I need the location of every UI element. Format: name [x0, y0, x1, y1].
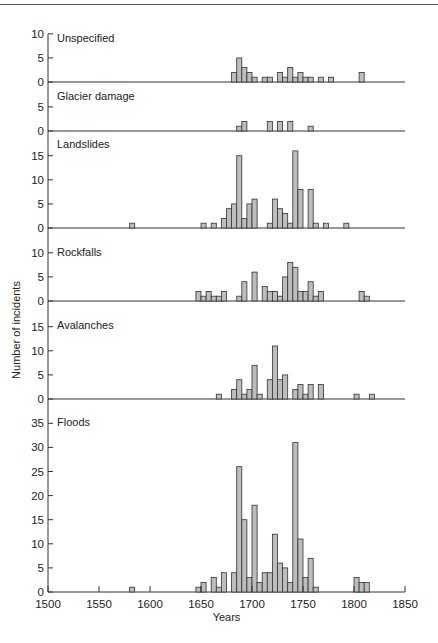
y-tick-label: 5 — [38, 101, 44, 113]
y-tick-label: 5 — [38, 52, 44, 64]
x-tick-label: 1650 — [188, 598, 214, 610]
histogram-bar — [242, 218, 247, 228]
histogram-bar — [344, 223, 349, 228]
histogram-bar — [318, 77, 323, 82]
y-tick-label: 0 — [38, 295, 44, 307]
histogram-bar — [323, 223, 328, 228]
histogram-bar — [257, 394, 262, 399]
x-tick-label: 1800 — [341, 598, 367, 610]
y-tick-label: 5 — [38, 271, 44, 283]
histogram-bar — [211, 223, 216, 228]
histogram-bar — [242, 520, 247, 592]
y-tick-label: 5 — [38, 369, 44, 381]
histogram-bar — [130, 223, 135, 228]
histogram-bar — [247, 204, 252, 228]
y-tick-label: 0 — [38, 222, 44, 234]
histogram-bar — [278, 380, 283, 399]
y-tick-label: 10 — [31, 28, 44, 40]
histogram-bar — [221, 218, 226, 228]
histogram-bar — [278, 209, 283, 228]
histogram-bar — [221, 573, 226, 592]
histogram-bar — [242, 121, 247, 131]
histogram-bar — [232, 72, 237, 82]
histogram-bar — [196, 291, 201, 301]
y-tick-label: 30 — [31, 441, 44, 453]
histogram-bar — [272, 291, 277, 301]
histogram-bar — [313, 223, 318, 228]
y-tick-label: 5 — [38, 198, 44, 210]
histogram-bar — [354, 394, 359, 399]
panel-title: Avalanches — [57, 319, 114, 331]
histogram-bar — [303, 394, 308, 399]
y-tick-label: 0 — [38, 393, 44, 405]
histogram-bar — [308, 385, 313, 400]
histogram-bar — [329, 77, 334, 82]
histogram-bar — [130, 587, 135, 592]
histogram-bar — [293, 151, 298, 228]
y-tick-label: 10 — [31, 345, 44, 357]
panel-title: Landslides — [57, 138, 110, 150]
histogram-bar — [262, 77, 267, 82]
histogram-bar — [272, 199, 277, 228]
histogram-bar — [237, 467, 242, 592]
histogram-bar — [318, 291, 323, 301]
x-tick-label: 1700 — [239, 598, 265, 610]
y-tick-label: 15 — [31, 150, 44, 162]
y-tick-label: 15 — [31, 514, 44, 526]
histogram-bar — [293, 389, 298, 399]
histogram-bar — [364, 296, 369, 301]
y-tick-label: 25 — [31, 466, 44, 478]
histogram-bar — [288, 121, 293, 131]
histogram-bar — [232, 204, 237, 228]
histogram-bar — [247, 72, 252, 82]
histogram-bar — [247, 389, 252, 399]
histogram-bar — [252, 365, 257, 399]
histogram-bar — [216, 587, 221, 592]
histogram-bar — [247, 578, 252, 593]
y-tick-label: 0 — [38, 76, 44, 88]
histogram-bar — [303, 77, 308, 82]
panel-title: Unspecified — [57, 32, 114, 44]
histogram-bar — [288, 582, 293, 592]
histogram-bar — [242, 68, 247, 83]
histogram-bar — [293, 443, 298, 592]
panel-title: Glacier damage — [57, 90, 135, 102]
histogram-bar — [257, 582, 262, 592]
histogram-bar — [308, 558, 313, 592]
histogram-bar — [293, 267, 298, 301]
histogram-bar — [278, 296, 283, 301]
histogram-bar — [283, 375, 288, 399]
histogram-bar — [288, 68, 293, 83]
y-axis-title: Number of incidents — [10, 281, 22, 379]
histogram-bar — [252, 272, 257, 301]
histogram-bar — [288, 223, 293, 228]
histogram-bar — [227, 209, 232, 228]
histogram-bar — [267, 291, 272, 301]
y-tick-label: 20 — [31, 490, 44, 502]
histogram-bar — [252, 199, 257, 228]
histogram-bar — [237, 380, 242, 399]
histogram-bar — [252, 505, 257, 592]
histogram-bar — [313, 587, 318, 592]
histogram-bar — [211, 578, 216, 593]
histogram-bar — [293, 77, 298, 82]
y-tick-label: 10 — [31, 174, 44, 186]
histogram-bar — [201, 296, 206, 301]
histogram-bar — [288, 262, 293, 301]
histogram-bar — [267, 77, 272, 82]
panel-title: Floods — [57, 416, 91, 428]
histogram-bar — [262, 573, 267, 592]
histogram-bar — [201, 582, 206, 592]
histogram-bar — [252, 77, 257, 82]
histogram-bar — [298, 291, 303, 301]
histogram-bar — [278, 72, 283, 82]
histogram-bar — [283, 568, 288, 592]
y-tick-label: 10 — [31, 247, 44, 259]
histogram-bar — [283, 277, 288, 301]
histogram-bar — [278, 563, 283, 592]
histogram-bar — [232, 573, 237, 592]
histogram-bar — [242, 394, 247, 399]
histogram-bar — [201, 223, 206, 228]
histogram-bar — [278, 121, 283, 131]
histogram-bar — [354, 578, 359, 593]
